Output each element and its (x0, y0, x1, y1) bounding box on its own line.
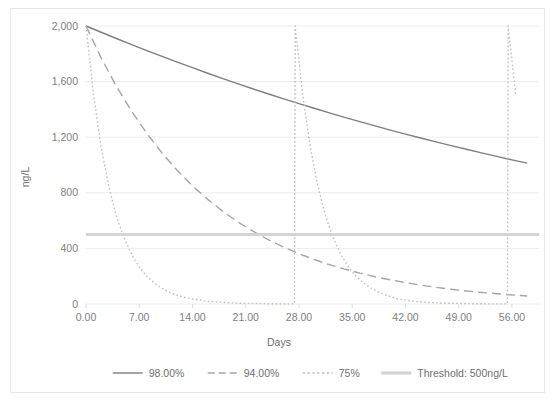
legend-label-0: 98.00% (149, 367, 185, 379)
line-chart: 04008001,2001,6002,000 0.007.0014.0021.0… (11, 9, 546, 394)
y-tick-label: 800 (60, 186, 78, 198)
data-series-group (86, 26, 527, 304)
x-tick-label: 56.00 (499, 311, 525, 323)
x-tick-label: 49.00 (446, 311, 472, 323)
y-tick-label: 2,000 (52, 20, 78, 32)
x-tick-label: 42.00 (392, 311, 418, 323)
y-tick-label: 400 (60, 242, 78, 254)
x-tick-label: 0.00 (76, 311, 97, 323)
x-tick-label: 7.00 (129, 311, 150, 323)
chart-legend: 98.00%94.00%75%Threshold: 500ng/L (113, 367, 508, 379)
series-line-2 (86, 26, 516, 304)
legend-label-2: 75% (339, 367, 360, 379)
y-tick-label: 1,600 (52, 75, 78, 87)
y-tick-label: 1,200 (52, 131, 78, 143)
y-axis-title: ng/L (19, 167, 31, 188)
x-axis-tick-labels: 0.007.0014.0021.0028.0035.0042.0049.0056… (76, 311, 525, 323)
gridlines (86, 26, 539, 304)
y-axis-tick-labels: 04008001,2001,6002,000 (52, 20, 78, 310)
legend-label-3: Threshold: 500ng/L (417, 367, 508, 379)
x-tick-label: 14.00 (179, 311, 205, 323)
y-tick-label: 0 (72, 298, 78, 310)
series-line-0 (86, 26, 527, 163)
series-line-1 (86, 26, 527, 296)
x-axis-tick-marks (86, 304, 512, 308)
chart-container: 04008001,2001,6002,000 0.007.0014.0021.0… (10, 8, 545, 393)
x-tick-label: 35.00 (339, 311, 365, 323)
x-axis-title: Days (267, 336, 291, 348)
legend-label-1: 94.00% (244, 367, 280, 379)
x-tick-label: 28.00 (286, 311, 312, 323)
x-tick-label: 21.00 (233, 311, 259, 323)
